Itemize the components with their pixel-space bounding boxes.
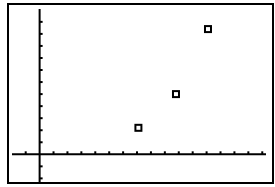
data-point-marker (173, 91, 179, 97)
plot-frame (8, 4, 273, 183)
scatter-plot (0, 0, 275, 187)
data-point-marker (205, 26, 211, 32)
data-point-marker (135, 125, 141, 131)
